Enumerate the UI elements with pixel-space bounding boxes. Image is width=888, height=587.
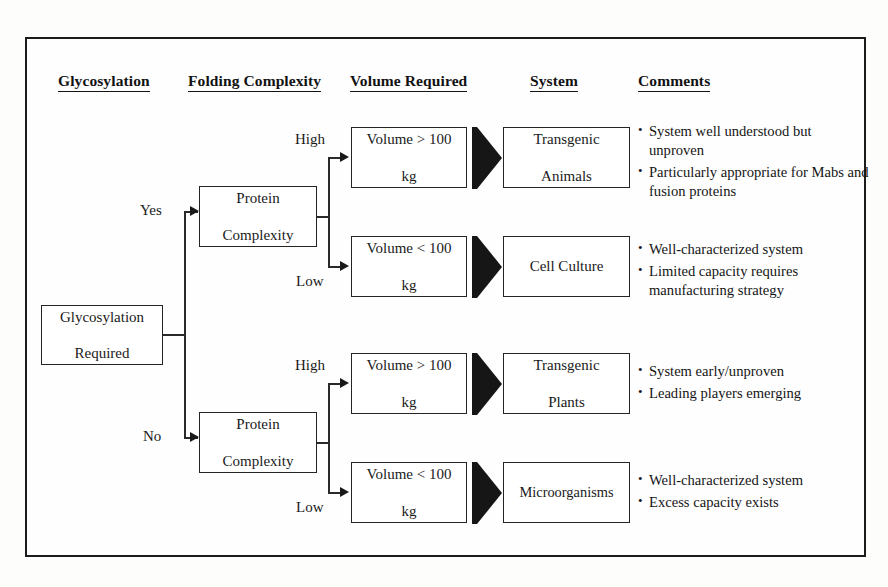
comment-bullet: • Well-characterized system <box>638 240 870 259</box>
node-system-cell-culture-line1: Cell Culture <box>526 257 608 275</box>
node-glycosylation-required[interactable]: Glycosylation Required <box>41 305 163 365</box>
node-glycosylation-required-line2: Required <box>56 344 148 362</box>
edge-trunk-vertical <box>184 211 186 439</box>
edge-label-yes-low: Low <box>296 273 324 290</box>
column-header-comments: Comments <box>638 72 710 92</box>
node-protein-complexity-yes[interactable]: Protein Complexity <box>199 186 317 247</box>
node-system-transgenic-animals-line1: Transgenic <box>529 130 603 148</box>
node-volume-no-high-line2: kg <box>363 393 456 411</box>
chevron-arrow-icon <box>472 351 502 417</box>
comment-text: Limited capacity requires manufacturing … <box>649 262 870 300</box>
comment-bullet: • Excess capacity exists <box>638 493 870 512</box>
node-protein-complexity-no[interactable]: Protein Complexity <box>199 412 317 473</box>
node-protein-complexity-no-line1: Protein <box>219 415 298 433</box>
node-volume-yes-high[interactable]: Volume > 100 kg <box>351 127 467 188</box>
bullet-icon: • <box>638 240 649 257</box>
node-volume-yes-high-line2: kg <box>363 167 456 185</box>
edge-yes-split-vertical <box>328 157 330 267</box>
comments-cell-culture: • Well-characterized system • Limited ca… <box>638 240 870 303</box>
node-volume-no-high[interactable]: Volume > 100 kg <box>351 353 467 414</box>
bullet-icon: • <box>638 471 649 488</box>
column-header-glycosylation: Glycosylation <box>58 72 150 92</box>
node-volume-yes-low-line2: kg <box>363 276 456 294</box>
edge-label-no-high: High <box>295 357 325 374</box>
node-system-transgenic-animals[interactable]: Transgenic Animals <box>503 127 630 188</box>
edge-label-no: No <box>143 428 161 445</box>
comment-text: Well-characterized system <box>649 240 870 259</box>
comment-bullet: • Leading players emerging <box>638 384 870 403</box>
node-system-transgenic-animals-line2: Animals <box>529 167 603 185</box>
comment-bullet: • System early/unproven <box>638 362 870 381</box>
comment-text: Particularly appropriate for Mabs and fu… <box>649 163 870 201</box>
node-system-transgenic-plants-line1: Transgenic <box>529 356 603 374</box>
arrowhead-no-high <box>340 378 349 388</box>
node-volume-yes-high-line1: Volume > 100 <box>363 130 456 148</box>
node-volume-no-high-line1: Volume > 100 <box>363 356 456 374</box>
bullet-icon: • <box>638 493 649 510</box>
edge-label-yes: Yes <box>140 202 162 219</box>
bullet-icon: • <box>638 163 649 180</box>
comment-bullet: • Particularly appropriate for Mabs and … <box>638 163 870 201</box>
bullet-icon: • <box>638 362 649 379</box>
arrowhead-no-low <box>340 487 349 497</box>
comments-transgenic-animals: • System well understood but unproven • … <box>638 122 870 204</box>
bullet-icon: • <box>638 122 649 139</box>
node-protein-complexity-no-line2: Complexity <box>219 452 298 470</box>
bullet-icon: • <box>638 384 649 401</box>
node-volume-no-low[interactable]: Volume < 100 kg <box>351 462 467 523</box>
comment-text: System well understood but unproven <box>649 122 870 160</box>
node-system-cell-culture[interactable]: Cell Culture <box>503 236 630 297</box>
node-volume-no-low-line1: Volume < 100 <box>363 465 456 483</box>
arrowhead-yes-low <box>340 261 349 271</box>
node-system-transgenic-plants[interactable]: Transgenic Plants <box>503 353 630 414</box>
arrowhead-no <box>190 432 199 442</box>
node-system-transgenic-plants-line2: Plants <box>529 393 603 411</box>
column-header-system: System <box>530 72 578 92</box>
comment-text: System early/unproven <box>649 362 870 381</box>
edge-root-to-trunk <box>163 334 185 336</box>
node-system-microorganisms[interactable]: Microorganisms <box>503 462 630 523</box>
comment-bullet: • Limited capacity requires manufacturin… <box>638 262 870 300</box>
edge-label-no-low: Low <box>296 499 324 516</box>
node-protein-complexity-yes-line2: Complexity <box>219 226 298 244</box>
comment-text: Leading players emerging <box>649 384 870 403</box>
comments-microorganisms: • Well-characterized system • Excess cap… <box>638 471 870 515</box>
comment-bullet: • System well understood but unproven <box>638 122 870 160</box>
comment-text: Well-characterized system <box>649 471 870 490</box>
comment-text: Excess capacity exists <box>649 493 870 512</box>
comments-transgenic-plants: • System early/unproven • Leading player… <box>638 362 870 406</box>
chevron-arrow-icon <box>472 460 502 526</box>
bullet-icon: • <box>638 262 649 279</box>
node-volume-no-low-line2: kg <box>363 502 456 520</box>
scan-canvas: Glycosylation Folding Complexity Volume … <box>0 0 888 587</box>
comment-bullet: • Well-characterized system <box>638 471 870 490</box>
arrowhead-yes-high <box>340 152 349 162</box>
chevron-arrow-icon <box>472 125 502 191</box>
edge-label-yes-high: High <box>295 131 325 148</box>
chevron-arrow-icon <box>472 234 502 300</box>
column-header-volume-required: Volume Required <box>350 72 467 92</box>
node-glycosylation-required-line1: Glycosylation <box>56 308 148 326</box>
column-header-folding-complexity: Folding Complexity <box>188 72 321 92</box>
node-volume-yes-low[interactable]: Volume < 100 kg <box>351 236 467 297</box>
node-system-microorganisms-line1: Microorganisms <box>515 484 617 502</box>
arrowhead-yes <box>190 206 199 216</box>
node-protein-complexity-yes-line1: Protein <box>219 189 298 207</box>
node-volume-yes-low-line1: Volume < 100 <box>363 239 456 257</box>
edge-no-split-vertical <box>328 383 330 493</box>
